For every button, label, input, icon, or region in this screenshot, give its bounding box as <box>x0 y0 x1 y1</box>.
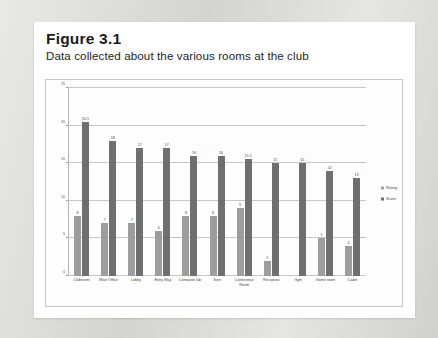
bar-value-label: 2 <box>266 256 268 260</box>
legend-swatch-icon <box>381 186 384 189</box>
bar-value-label: 8 <box>185 211 187 215</box>
bar-value-label: 6 <box>158 226 160 230</box>
x-axis-category-labels: ClubroomMain OfficeLobbyEntry WayCompute… <box>68 278 366 300</box>
bar-score: 17 <box>163 148 170 276</box>
bar-value-label: 20.5 <box>82 117 89 121</box>
bar-group: 717 <box>122 88 149 276</box>
legend-item-score: Score <box>381 197 397 201</box>
bar-score: 16 <box>218 156 225 276</box>
figure-caption: Data collected about the various rooms a… <box>46 49 415 62</box>
bar-rating: 8 <box>210 216 217 276</box>
bar-value-label: 15.5 <box>245 154 252 158</box>
bar-value-label: 5 <box>320 233 322 237</box>
bar-group: 816 <box>176 88 203 276</box>
x-axis-label: Teen <box>203 278 230 300</box>
y-axis-tick-label: 0 <box>63 270 65 274</box>
bar-value-label: 8 <box>77 211 79 215</box>
bar-group: 915.5 <box>231 88 258 276</box>
x-axis-label: Conference Room <box>231 278 258 300</box>
bar-group: 718 <box>95 88 122 276</box>
y-axis-tick-label: 20 <box>61 120 65 124</box>
bar-rating: 8 <box>74 216 81 276</box>
bar-group: 617 <box>149 88 176 276</box>
bar-rating: 2 <box>264 261 271 276</box>
bar-rating: 7 <box>101 223 108 276</box>
bar-rating: 9 <box>237 208 244 276</box>
bar-score: 20.5 <box>82 122 89 276</box>
x-axis-label: Main Office <box>95 278 122 300</box>
bar-value-label: 13 <box>354 173 358 177</box>
bar-value-label: 17 <box>165 143 169 147</box>
y-axis-tick-label: 15 <box>61 157 65 161</box>
figure-number: Figure 3.1 <box>46 31 415 47</box>
figure-card: Figure 3.1 Data collected about the vari… <box>34 22 415 318</box>
bar-group: 816 <box>203 88 230 276</box>
bar-group: 413 <box>339 88 366 276</box>
bar-rating: 6 <box>155 231 162 276</box>
bar-value-label: 15 <box>300 158 304 162</box>
bar-rating: 4 <box>345 246 352 276</box>
bars-layer: 820.5718717617816816915.521515514413 <box>68 88 366 276</box>
x-axis-label: Reception <box>258 278 285 300</box>
legend-label: Score <box>386 197 396 201</box>
x-axis-label: Lobby <box>122 278 149 300</box>
bar-score: 16 <box>190 156 197 276</box>
x-axis-label: Gym <box>285 278 312 300</box>
bar-value-label: 16 <box>192 151 196 155</box>
x-axis-label: Cadet <box>339 278 366 300</box>
bar-score: 15 <box>299 163 306 276</box>
x-axis-label: Entry Way <box>149 278 176 300</box>
bar-value-label: 7 <box>131 218 133 222</box>
bar-group: 15 <box>285 88 312 276</box>
x-axis-label: Computer lab <box>176 278 203 300</box>
legend-label: Rating <box>386 186 397 190</box>
bar-score: 13 <box>353 178 360 276</box>
bar-rating: 5 <box>318 238 325 276</box>
bar-value-label: 16 <box>219 151 223 155</box>
figure-heading: Figure 3.1 Data collected about the vari… <box>34 22 415 63</box>
bar-score: 18 <box>109 141 116 276</box>
bar-group: 215 <box>258 88 285 276</box>
chart-legend: RatingScore <box>381 186 397 201</box>
bar-rating: 7 <box>128 223 135 276</box>
bar-value-label: 8 <box>212 211 214 215</box>
legend-swatch-icon <box>381 197 384 200</box>
plot-area: 0510152025 820.5718717617816816915.52151… <box>68 88 366 276</box>
bar-value-label: 7 <box>104 218 106 222</box>
bar-value-label: 15 <box>273 158 277 162</box>
bar-group: 514 <box>312 88 339 276</box>
bar-value-label: 18 <box>111 136 115 140</box>
y-axis-tick-label: 25 <box>61 82 65 86</box>
x-axis-label: Game room <box>312 278 339 300</box>
bar-rating: 8 <box>182 216 189 276</box>
bar-value-label: 9 <box>239 203 241 207</box>
bar-value-label: 14 <box>327 166 331 170</box>
bar-value-label: 4 <box>347 241 349 245</box>
y-axis-tick-label: 5 <box>63 232 65 236</box>
chart-frame: 0510152025 820.5718717617816816915.52151… <box>45 79 403 307</box>
bar-score: 14 <box>326 171 333 276</box>
bar-score: 15 <box>272 163 279 276</box>
bar-value-label: 17 <box>138 143 142 147</box>
bar-score: 17 <box>136 148 143 276</box>
x-axis-label: Clubroom <box>68 278 95 300</box>
bar-score: 15.5 <box>245 159 252 276</box>
y-axis-tick-label: 10 <box>61 195 65 199</box>
legend-item-rating: Rating <box>381 186 397 190</box>
bar-group: 820.5 <box>68 88 95 276</box>
